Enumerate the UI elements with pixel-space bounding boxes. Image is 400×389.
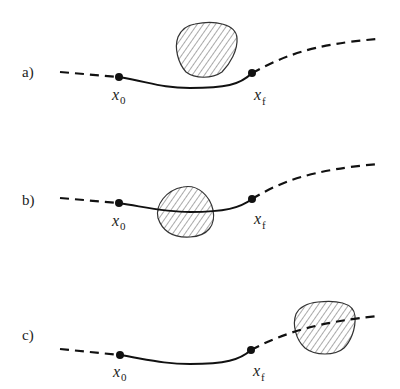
panel-a: a) x0 xf <box>22 23 378 107</box>
obstacle <box>294 301 355 354</box>
dashed-trajectory-after <box>252 164 378 199</box>
end-label: xf <box>252 362 265 383</box>
panel-b: b) x0 xf <box>22 164 378 237</box>
end-point-dot <box>248 69 256 77</box>
start-point-dot <box>115 199 123 207</box>
trajectory-obstacle-diagram: a) x0 xf b) x0 xf c) x0 xf <box>0 0 400 389</box>
start-point-dot <box>115 73 123 81</box>
start-label: x0 <box>112 363 127 383</box>
panel-label-a: a) <box>22 64 34 81</box>
dashed-trajectory-after <box>252 39 378 73</box>
end-point-dot <box>248 195 256 203</box>
dashed-trajectory-before <box>60 198 119 203</box>
end-point-dot <box>247 346 255 354</box>
panel-label-c: c) <box>22 327 34 344</box>
panel-label-b: b) <box>22 192 35 209</box>
start-label: x0 <box>111 212 126 232</box>
obstacle <box>176 23 237 78</box>
solid-trajectory-segment <box>119 73 252 88</box>
panel-c: c) x0 xf <box>22 301 378 383</box>
dashed-trajectory-before <box>60 72 119 77</box>
start-point-dot <box>116 351 124 359</box>
dashed-trajectory-before <box>60 349 120 355</box>
end-label: xf <box>253 210 266 231</box>
start-label: x0 <box>111 86 126 106</box>
end-label: xf <box>253 86 266 107</box>
solid-trajectory-segment <box>120 350 251 364</box>
